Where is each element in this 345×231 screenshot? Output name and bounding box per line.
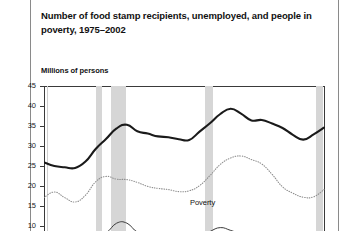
chart-plot-area: 4540353025201510 PovertyFood stamps reci… [44,86,325,231]
page-border-right [338,0,339,231]
y-axis-unit-label: Millions of persons [41,66,108,75]
y-axis-tick-label: 20 [20,182,36,190]
y-axis-tick-label: 45 [20,82,36,90]
y-axis-tick-label: 25 [20,162,36,170]
series-line-unemployed [44,222,324,231]
series-lines-group [44,86,325,231]
y-axis-tick-label: 40 [20,102,36,110]
figure-page: Number of food stamp recipients, unemplo… [0,0,345,231]
y-axis-tick-label: 30 [20,142,36,150]
y-axis-tick-label: 10 [20,222,36,230]
page-title: Number of food stamp recipients, unemplo… [41,9,321,36]
series-label-poverty: Poverty [190,198,215,207]
series-line-food-stamps-recipients [44,156,324,202]
y-axis-tick-label: 35 [20,122,36,130]
page-border-left [30,0,31,231]
y-axis-tick-label: 15 [20,202,36,210]
series-line-poverty [44,109,324,169]
